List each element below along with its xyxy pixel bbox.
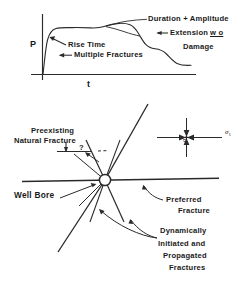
rise-time-arrow	[49, 36, 66, 45]
well-bore-label: Well Bore	[14, 191, 54, 200]
preexisting-label-line2: Natural Fracture	[14, 137, 76, 146]
extension-arrow	[156, 31, 168, 35]
multiple-fractures-label: Multiple Fractures	[74, 51, 143, 60]
preexisting-label-line1: Preexisting	[31, 127, 74, 136]
duration-amplitude-label: Duration + Amplitude	[148, 15, 229, 24]
fracture-ray-ne	[105, 104, 148, 180]
fracture-ray-sw	[58, 180, 105, 252]
figure-canvas: P t Rise Time Multiple Fractures Duratio…	[0, 0, 245, 281]
multiple-fractures-arrow	[59, 53, 72, 57]
dynamic-fracture-label-line1: Dynamically	[160, 227, 207, 236]
extension-label: Extension	[170, 29, 208, 38]
dynamic-fracture-label-line2: Initiated and	[158, 240, 205, 249]
preferred-fracture-label-line1: Preferred	[166, 196, 202, 205]
dynamic-fracture-leader-left	[99, 209, 157, 238]
principal-stress-cross	[157, 118, 222, 157]
fracture-ray-nne	[105, 140, 120, 180]
well-bore-circle	[99, 174, 110, 185]
x-axis-label: t	[87, 79, 90, 89]
well-bore-leader	[60, 183, 96, 198]
dynamic-fracture-label-line4: Fractures	[169, 264, 205, 273]
duration-leader-line	[106, 19, 147, 26]
y-axis-label: P	[30, 39, 36, 49]
without-damage-label: w o	[210, 29, 223, 38]
preferred-fracture-leader	[142, 185, 163, 200]
preferred-fracture-label-line2: Fracture	[178, 207, 210, 216]
sigma-1-label: σ1	[225, 128, 231, 137]
fracture-ray-sse	[105, 180, 124, 222]
dynamic-fracture-label-line3: Propagated	[163, 252, 207, 261]
question-mark-label: ?	[79, 144, 84, 153]
preferred-fracture-line	[22, 178, 219, 181]
sigma-2-glyph: σ	[180, 139, 188, 142]
pressure-curve	[43, 23, 191, 74]
sigma-2-subscript: 2	[184, 136, 189, 139]
sigma-2-label: σ2	[180, 136, 189, 142]
damage-label: Damage	[183, 43, 214, 52]
rise-time-label: Rise Time	[68, 41, 106, 50]
sigma-1-subscript: 1	[228, 132, 231, 137]
